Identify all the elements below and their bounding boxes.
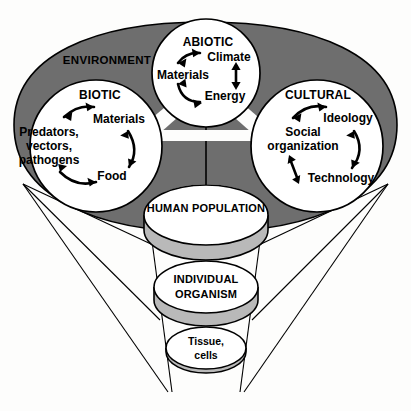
level-individual-organism[interactable]: INDIVIDUAL ORGANISM — [154, 261, 258, 326]
node-abiotic-climate: Climate — [207, 50, 251, 64]
node-cultural-ideology: Ideology — [323, 111, 373, 125]
node-cultural-social-line1: Social — [285, 125, 320, 139]
level-tissue-cells-label-line1: Tissue, — [188, 335, 224, 347]
level-human-population[interactable]: HUMAN POPULATION — [144, 185, 268, 260]
sector-title-biotic: BIOTIC — [79, 88, 121, 102]
sector-title-abiotic: ABIOTIC — [183, 35, 234, 49]
node-abiotic-energy: Energy — [205, 89, 246, 103]
environment-label: ENVIRONMENT — [63, 54, 151, 66]
level-human-population-label: HUMAN POPULATION — [147, 202, 266, 214]
environment-hierarchy-diagram: ENVIRONMENT BIOTIC Predators, vectors, p… — [0, 0, 411, 411]
level-human-population-top — [144, 185, 268, 245]
level-tissue-cells-label-line2: cells — [194, 349, 218, 361]
node-cultural-social-line2: organization — [267, 139, 338, 153]
sector-title-cultural: CULTURAL — [285, 88, 351, 102]
level-tissue-cells[interactable]: Tissue, cells — [166, 327, 246, 373]
node-biotic-predators-line3: pathogens — [19, 153, 80, 167]
level-individual-organism-label-line2: ORGANISM — [175, 288, 237, 300]
node-biotic-materials: Materials — [93, 112, 145, 126]
node-biotic-food: Food — [97, 169, 126, 183]
level-individual-organism-label-line1: INDIVIDUAL — [174, 273, 239, 285]
node-cultural-technology: Technology — [308, 171, 375, 185]
node-abiotic-materials: Materials — [157, 68, 209, 82]
node-biotic-predators-line2: vectors, — [26, 139, 72, 153]
node-biotic-predators-line1: Predators, — [19, 125, 78, 139]
diagram-root: ENVIRONMENT BIOTIC Predators, vectors, p… — [0, 0, 411, 411]
